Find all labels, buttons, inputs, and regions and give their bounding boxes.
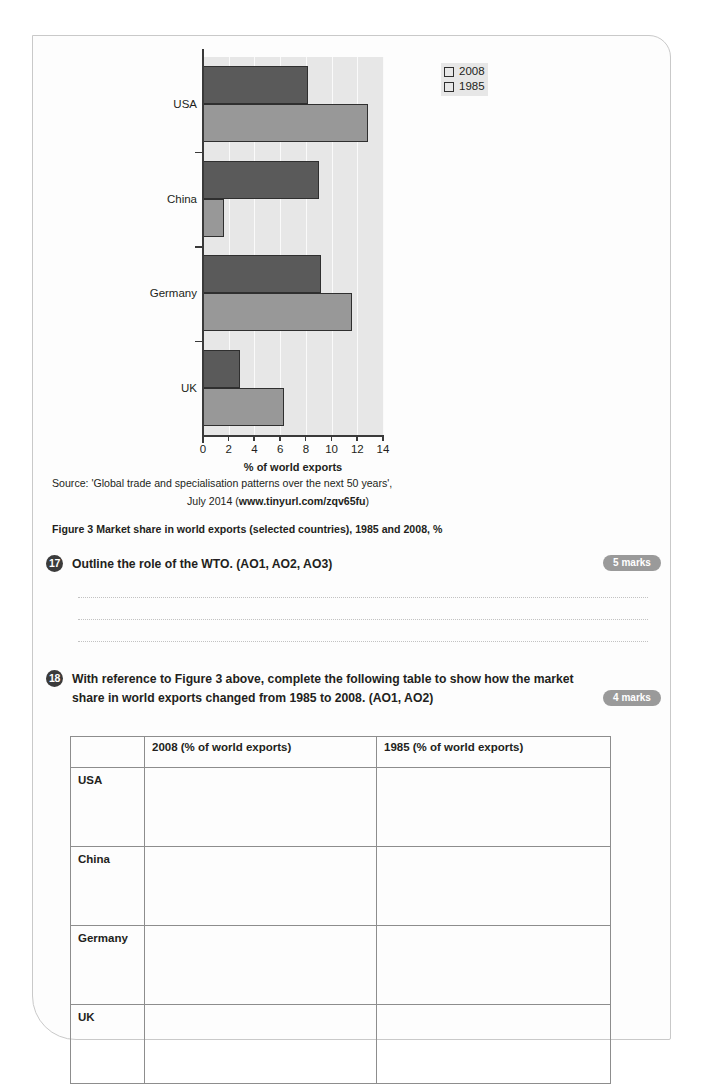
x-tick: [356, 435, 358, 441]
table-cell-china-1985[interactable]: [377, 847, 611, 926]
table-cell-uk-1985[interactable]: [377, 1005, 611, 1084]
bar-uk-2008: [203, 350, 240, 388]
bar-usa-1985: [203, 104, 368, 142]
chart-x-axis-title: % of world exports: [203, 461, 383, 473]
question-18-text: With reference to Figure 3 above, comple…: [72, 670, 592, 707]
question-18-number: 18: [46, 670, 63, 687]
table-cell-uk-2008[interactable]: [145, 1005, 377, 1084]
x-tick: [331, 435, 333, 441]
table-cell-china-2008[interactable]: [145, 847, 377, 926]
legend-label-2008: 2008: [459, 64, 485, 79]
table-row-label-usa: USA: [71, 768, 145, 847]
table-cell-germany-2008[interactable]: [145, 926, 377, 1005]
bar-germany-2008: [203, 255, 321, 293]
x-tick: [382, 435, 384, 441]
table-row: Germany: [71, 926, 611, 1005]
question-17-text: Outline the role of the WTO. (AO1, AO2, …: [72, 555, 592, 574]
gridline: [383, 57, 384, 435]
y-tick: [195, 246, 203, 248]
category-label-germany: Germany: [79, 287, 197, 299]
table-cell-usa-1985[interactable]: [377, 768, 611, 847]
figure-caption: Figure 3 Market share in world exports (…: [52, 523, 442, 535]
table-header-2008: 2008 (% of world exports): [145, 737, 377, 768]
table-cell-usa-2008[interactable]: [145, 768, 377, 847]
chart-plot-area: 2008 1985: [203, 57, 383, 435]
table-row-label-china: China: [71, 847, 145, 926]
x-tick: [228, 435, 230, 441]
bar-uk-1985: [203, 388, 284, 426]
legend-item-2008: 2008: [444, 64, 485, 79]
answer-line[interactable]: [78, 597, 648, 598]
question-18-marks-badge: 4 marks: [603, 690, 661, 706]
question-17-number: 17: [46, 555, 63, 572]
table-body: USAChinaGermanyUK: [71, 768, 611, 1084]
x-tick-label: 8: [303, 443, 309, 455]
table-row: USA: [71, 768, 611, 847]
bar-germany-1985: [203, 293, 352, 331]
table-cell-germany-1985[interactable]: [377, 926, 611, 1005]
table-header-row: 2008 (% of world exports) 1985 (% of wor…: [71, 737, 611, 768]
answer-table[interactable]: 2008 (% of world exports) 1985 (% of wor…: [70, 736, 611, 1084]
figure-source-line-2: July 2014 (www.tinyurl.com/zqv65fu): [187, 495, 369, 507]
x-tick: [202, 435, 204, 441]
x-tick: [305, 435, 307, 441]
answer-line[interactable]: [78, 619, 648, 620]
question-17-answer-area[interactable]: [78, 597, 648, 663]
source-prefix: July 2014 (: [187, 495, 239, 507]
bar-usa-2008: [203, 66, 308, 104]
y-tick: [195, 341, 203, 343]
category-label-china: China: [79, 193, 197, 205]
bar-china-2008: [203, 161, 319, 199]
source-suffix: ): [366, 495, 370, 507]
worksheet-page: 2008 1985 USAChinaGermanyUK 02468101214 …: [32, 35, 671, 1040]
legend-swatch-2008: [444, 67, 454, 77]
x-tick-label: 12: [351, 443, 364, 455]
x-tick: [253, 435, 255, 441]
category-label-uk: UK: [79, 382, 197, 394]
table-row-label-germany: Germany: [71, 926, 145, 1005]
table-header-1985: 1985 (% of world exports): [377, 737, 611, 768]
chart-legend: 2008 1985: [441, 63, 488, 96]
table-header-blank: [71, 737, 145, 768]
bar-china-1985: [203, 199, 224, 237]
answer-line[interactable]: [78, 641, 648, 642]
figure-source-line-1: Source: 'Global trade and specialisation…: [52, 477, 392, 489]
legend-item-1985: 1985: [444, 79, 485, 94]
legend-label-1985: 1985: [459, 79, 485, 94]
table-row: China: [71, 847, 611, 926]
x-tick-label: 14: [377, 443, 390, 455]
legend-swatch-1985: [444, 82, 454, 92]
x-tick-label: 10: [325, 443, 338, 455]
y-tick: [195, 152, 203, 154]
bar-chart: 2008 1985 USAChinaGermanyUK 02468101214 …: [131, 57, 461, 477]
x-tick-label: 0: [200, 443, 206, 455]
x-tick-label: 2: [226, 443, 232, 455]
x-tick-label: 4: [251, 443, 257, 455]
source-url: www.tinyurl.com/zqv65fu: [239, 495, 366, 507]
question-17-marks-badge: 5 marks: [603, 555, 661, 571]
x-tick: [279, 435, 281, 441]
category-label-usa: USA: [79, 98, 197, 110]
table-row-label-uk: UK: [71, 1005, 145, 1084]
table-row: UK: [71, 1005, 611, 1084]
x-tick-label: 6: [277, 443, 283, 455]
